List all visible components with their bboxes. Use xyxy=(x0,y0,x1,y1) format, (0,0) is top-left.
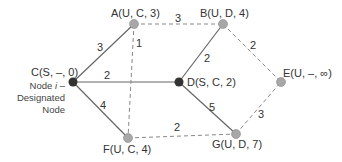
node-f xyxy=(124,134,133,143)
weight-b-e: 2 xyxy=(250,39,256,51)
node-d xyxy=(175,78,184,87)
label-node-e: E(U, –, ∞) xyxy=(283,67,332,79)
edge-d-g xyxy=(179,82,236,134)
annotation-line-3: Node xyxy=(42,104,65,115)
label-node-a: A(U, C, 3) xyxy=(111,7,160,19)
weight-c-d: 2 xyxy=(104,69,110,81)
weight-d-g: 5 xyxy=(209,101,215,113)
node-c xyxy=(69,78,78,87)
weight-c-a: 3 xyxy=(97,41,103,53)
node-a xyxy=(130,20,139,29)
label-node-g: G(U, D, 7) xyxy=(212,138,262,150)
weight-a-b: 3 xyxy=(175,12,181,24)
label-node-d: D(S, C, 2) xyxy=(187,76,236,88)
edge-d-b xyxy=(179,24,223,82)
edge-b-e xyxy=(223,24,281,82)
node-b xyxy=(219,20,228,29)
label-node-c: C(S, –, 0) xyxy=(31,66,78,78)
annotation-line-2: Designated xyxy=(17,92,65,103)
label-node-b: B(U, D, 4) xyxy=(200,7,249,19)
edge-a-f xyxy=(128,24,134,138)
network-graph: 3 2 4 2 5 3 1 2 2 3 A(U, C, 3) B(U, D, 4… xyxy=(0,0,342,162)
weight-d-b: 2 xyxy=(204,52,210,64)
label-node-f: F(U, C, 4) xyxy=(103,143,151,155)
annotation-line-1: Node i – xyxy=(30,80,66,91)
weight-g-e: 3 xyxy=(258,108,264,120)
weight-f-g: 2 xyxy=(174,121,180,133)
weight-a-f: 1 xyxy=(136,37,142,49)
weight-c-f: 4 xyxy=(100,99,106,111)
